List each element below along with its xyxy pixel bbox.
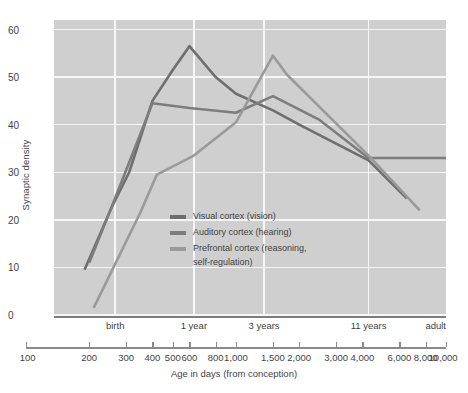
x-axis-baseline: [54, 316, 446, 318]
legend-item-prefrontal-cortex: Prefrontal cortex (reasoning, self-regul…: [170, 242, 307, 269]
y-tick-label: 60: [2, 24, 54, 35]
log-tick-label: 1,500: [261, 352, 285, 363]
log-tick-label: 6,000: [388, 352, 412, 363]
legend-item-visual-cortex: Visual cortex (vision): [170, 210, 307, 224]
log-tick-mark: [273, 342, 274, 347]
log-tick-mark: [152, 342, 153, 347]
log-tick-label: 300: [118, 352, 134, 363]
log-tick-label: 400: [144, 352, 160, 363]
log-tick-label: 3,000: [324, 352, 348, 363]
y-tick-label: 20: [2, 214, 54, 225]
x-category-label: 3 years: [248, 320, 279, 331]
x-category-label: adult: [425, 320, 446, 331]
log-tick-label: 10,000: [429, 352, 458, 363]
y-tick-label: 40: [2, 119, 54, 130]
x-category-label: birth: [106, 320, 124, 331]
x-category-label: 11 years: [351, 320, 387, 331]
plot-area: 0102030405060 Visual cortex (vision) Aud…: [54, 20, 446, 315]
log-tick-mark: [216, 342, 217, 347]
legend-swatch-auditory-cortex: [170, 231, 186, 235]
log-tick-label: 500: [165, 352, 181, 363]
log-tick-mark: [336, 342, 337, 347]
log-tick-mark: [299, 342, 300, 347]
legend-swatch-prefrontal-cortex: [170, 247, 186, 251]
log-tick-label: 200: [81, 352, 97, 363]
log-tick-mark: [399, 342, 400, 347]
legend-swatch-visual-cortex: [170, 215, 186, 219]
y-tick-label: 0: [2, 310, 54, 321]
log-tick-label: 2,000: [287, 352, 311, 363]
legend-item-auditory-cortex: Auditory cortex (hearing): [170, 226, 307, 240]
y-tick-label: 30: [2, 167, 54, 178]
log-tick-label: 600: [181, 352, 197, 363]
log-tick-mark: [26, 342, 27, 347]
log-tick-mark: [173, 342, 174, 347]
log-tick-mark: [126, 342, 127, 347]
legend-label-auditory-cortex: Auditory cortex (hearing): [193, 226, 292, 240]
chart-legend: Visual cortex (vision) Auditory cortex (…: [170, 210, 307, 272]
log-tick-mark: [189, 342, 190, 347]
log-tick-mark: [236, 342, 237, 347]
log-tick-mark: [446, 342, 447, 347]
log-tick-label: 1,000: [224, 352, 248, 363]
x-axis-title: Age in days (from conception): [0, 368, 468, 379]
legend-label-visual-cortex: Visual cortex (vision): [193, 210, 276, 224]
log-tick-mark: [362, 342, 363, 347]
log-tick-mark: [426, 342, 427, 347]
x-category-label: 1 year: [181, 320, 207, 331]
log-tick-label: 100: [20, 352, 36, 363]
y-tick-label: 50: [2, 72, 54, 83]
log-tick-label: 4,000: [351, 352, 375, 363]
log-scale-axis: [26, 347, 446, 349]
legend-label-prefrontal-cortex: Prefrontal cortex (reasoning, self-regul…: [193, 242, 307, 269]
synaptic-density-chart: Synaptic density 0102030405060 Visual co…: [0, 0, 468, 393]
log-tick-mark: [89, 342, 90, 347]
log-tick-label: 800: [208, 352, 224, 363]
y-tick-label: 10: [2, 262, 54, 273]
